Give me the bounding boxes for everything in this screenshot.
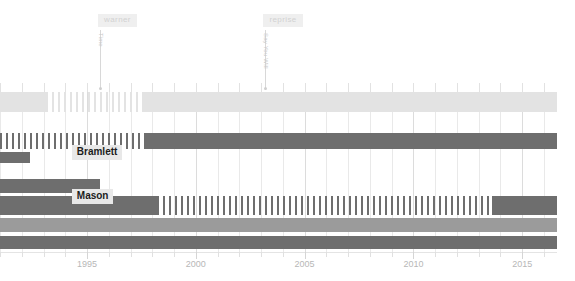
annotation-rotated-label-reprise: Say You Will	[263, 33, 269, 69]
segment-row-5-2	[492, 196, 557, 215]
axis-tick-2015	[522, 252, 523, 259]
top-tick-2013	[479, 83, 480, 92]
row-label-bramlett: Bramlett	[72, 145, 123, 160]
annotation-chip-reprise: reprise	[263, 14, 302, 27]
annotation-dot-warner	[99, 87, 102, 90]
top-tick-1999	[174, 83, 175, 92]
axis-label-1995: 1995	[77, 259, 97, 269]
top-tick-1994	[65, 83, 66, 92]
annotation-rotated-label-warner: Time	[98, 33, 104, 47]
top-tick-2014	[500, 83, 501, 92]
top-tick-2000	[196, 83, 197, 92]
axis-tick-1997	[131, 252, 132, 257]
segment-row-5-1	[157, 196, 492, 215]
top-tick-2015	[522, 83, 523, 92]
row-label-mason: Mason	[72, 189, 114, 204]
axis-tick-1994	[65, 252, 66, 257]
chart-plot-area: warnerTimerepriseSay You WillBramlettMas…	[0, 0, 575, 281]
segment-row-1-0	[0, 92, 46, 112]
top-tick-2004	[283, 83, 284, 92]
segment-row-2-1	[144, 133, 557, 149]
top-tick-1998	[152, 83, 153, 92]
axis-tick-1996	[109, 252, 110, 257]
axis-label-2015: 2015	[512, 259, 532, 269]
segment-row-1-2	[144, 92, 557, 112]
top-tick-1993	[44, 83, 45, 92]
segment-row-7-0	[0, 236, 557, 249]
top-tick-1992	[22, 83, 23, 92]
top-tick-2012	[457, 83, 458, 92]
axis-tick-2010	[413, 252, 414, 259]
row-row-7	[0, 236, 557, 249]
axis-tick-2016	[544, 252, 545, 257]
axis-tick-2011	[435, 252, 436, 257]
row-row-6	[0, 218, 557, 232]
axis-tick-2014	[500, 252, 501, 257]
axis-tick-2003	[261, 252, 262, 257]
axis-tick-2000	[196, 252, 197, 259]
axis-tick-2007	[348, 252, 349, 257]
axis-tick-2001	[218, 252, 219, 257]
axis-tick-1992	[22, 252, 23, 257]
top-tick-1997	[131, 83, 132, 92]
axis-tick-1993	[44, 252, 45, 257]
axis-tick-2002	[239, 252, 240, 257]
segment-row-3-0	[0, 152, 30, 163]
axis-tick-2004	[283, 252, 284, 257]
top-tick-2001	[218, 83, 219, 92]
x-axis-line	[0, 252, 557, 253]
top-tick-2006	[326, 83, 327, 92]
top-tick-2005	[305, 83, 306, 92]
top-tick-2003	[261, 83, 262, 92]
axis-tick-1991	[0, 252, 1, 257]
segment-row-1-1	[46, 92, 144, 112]
axis-label-2010: 2010	[403, 259, 423, 269]
top-tick-2016	[544, 83, 545, 92]
top-tick-1991	[0, 83, 1, 92]
top-tick-2011	[435, 83, 436, 92]
top-tick-1996	[109, 83, 110, 92]
axis-label-2000: 2000	[186, 259, 206, 269]
axis-tick-2009	[392, 252, 393, 257]
annotation-dot-reprise	[264, 87, 267, 90]
timeline-chart: warnerTimerepriseSay You WillBramlettMas…	[0, 0, 575, 281]
axis-tick-1999	[174, 252, 175, 257]
top-tick-2008	[370, 83, 371, 92]
top-tick-2009	[392, 83, 393, 92]
axis-tick-2012	[457, 252, 458, 257]
axis-tick-2006	[326, 252, 327, 257]
top-tick-2010	[413, 83, 414, 92]
segment-row-6-0	[0, 218, 557, 232]
axis-tick-2013	[479, 252, 480, 257]
top-tick-2002	[239, 83, 240, 92]
annotation-chip-warner: warner	[98, 14, 137, 27]
axis-tick-1995	[87, 252, 88, 259]
axis-tick-2005	[305, 252, 306, 259]
row-row-1	[0, 92, 557, 112]
top-tick-2007	[348, 83, 349, 92]
axis-tick-2008	[370, 252, 371, 257]
top-tick-1995	[87, 83, 88, 92]
axis-label-2005: 2005	[295, 259, 315, 269]
axis-tick-1998	[152, 252, 153, 257]
